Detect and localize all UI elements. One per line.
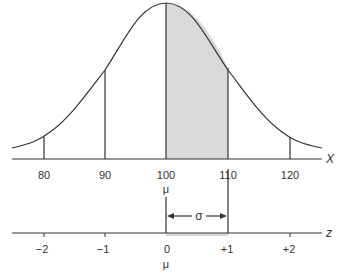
z-axis-label: z [325, 226, 332, 240]
z-tick-plus1: +1 [221, 243, 234, 255]
z-tick-0: 0 [164, 243, 170, 255]
x-tick-120: 120 [281, 169, 299, 181]
z-tick-plus2: +2 [283, 243, 296, 255]
z-tick-minus1: −1 [97, 243, 110, 255]
x-axis-label: X [325, 152, 335, 166]
x-tick-90: 90 [99, 169, 111, 181]
normal-distribution-figure: X 80 90 100 110 120 μ σ z −2 −1 0 +1 +2 … [0, 0, 339, 278]
x-mu-label: μ [163, 183, 169, 195]
z-tick-minus2: −2 [36, 243, 49, 255]
arrowhead-left-icon [167, 213, 174, 219]
z-mu-label: μ [163, 258, 169, 270]
x-tick-100: 100 [157, 169, 175, 181]
sigma-label: σ [195, 209, 203, 223]
x-tick-80: 80 [38, 169, 50, 181]
arrowhead-right-icon [220, 213, 227, 219]
shaded-area [166, 3, 228, 159]
